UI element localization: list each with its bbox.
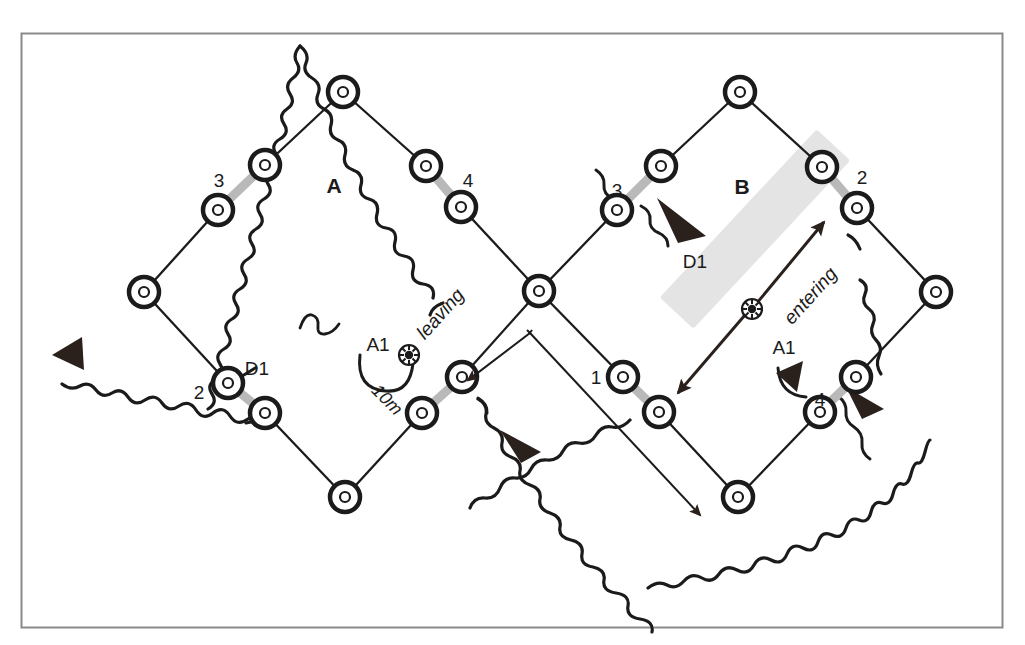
- gate-label-a4: 4: [463, 170, 474, 191]
- node: [725, 77, 755, 107]
- gate-label-b4: 4: [815, 389, 826, 410]
- ball-marker-left: [399, 345, 419, 365]
- node: [203, 195, 233, 225]
- node: [446, 192, 476, 222]
- node: [841, 362, 871, 392]
- node: [129, 277, 159, 307]
- node: [407, 398, 437, 428]
- node: [807, 152, 837, 182]
- gate-label-b1: 1: [591, 367, 602, 388]
- diagram-canvas: A B 3 4 2 3 2 1 4 D1 D1 A1 A1 leaving en…: [0, 0, 1025, 645]
- node: [250, 150, 280, 180]
- node: [411, 151, 441, 181]
- region-label-b: B: [734, 175, 749, 198]
- node: [328, 77, 358, 107]
- ball-marker-right: [742, 299, 762, 319]
- annotation-d1-right: D1: [683, 251, 707, 272]
- region-label-a: A: [326, 174, 341, 197]
- canvas-background: [0, 0, 1025, 645]
- node: [842, 193, 872, 223]
- node: [608, 362, 638, 392]
- diagram-figure: A B 3 4 2 3 2 1 4 D1 D1 A1 A1 leaving en…: [0, 0, 1025, 645]
- node: [646, 151, 676, 181]
- annotation-a1-left: A1: [366, 334, 389, 355]
- node: [644, 397, 674, 427]
- annotation-d1-left: D1: [245, 358, 269, 379]
- node: [723, 482, 753, 512]
- gate-label-b3: 3: [612, 180, 623, 201]
- gate-label-a2: 2: [194, 382, 205, 403]
- node: [330, 482, 360, 512]
- node: [250, 398, 280, 428]
- node-center-shared: [524, 276, 554, 306]
- gate-label-b2: 2: [857, 167, 868, 188]
- gate-label-a3: 3: [214, 170, 225, 191]
- node: [213, 368, 243, 398]
- node: [921, 277, 951, 307]
- annotation-a1-right: A1: [772, 337, 795, 358]
